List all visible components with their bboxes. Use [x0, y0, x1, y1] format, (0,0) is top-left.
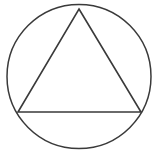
canvas-background: [0, 0, 160, 159]
geometry-figure: [0, 0, 160, 159]
figure-canvas: [0, 0, 160, 159]
